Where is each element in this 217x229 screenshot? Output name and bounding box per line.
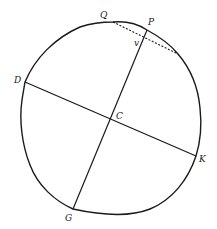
label-k: K [198, 154, 207, 164]
diameter-pg [73, 30, 147, 209]
label-v: v [134, 38, 139, 48]
label-p: P [147, 17, 155, 27]
diameter-dk [25, 82, 196, 156]
label-g: G [65, 213, 72, 223]
circle-diagram: Q P v D C K G [0, 0, 217, 229]
dashed-chord [113, 22, 178, 54]
label-d: D [13, 75, 21, 85]
label-q: Q [100, 10, 108, 20]
label-c: C [116, 111, 123, 121]
